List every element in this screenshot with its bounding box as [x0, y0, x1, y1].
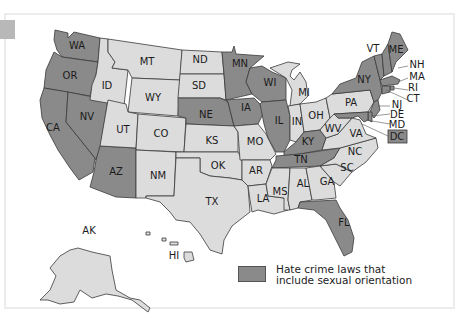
- label-wi: WI: [264, 77, 277, 88]
- state-hi-1[interactable]: [146, 232, 150, 235]
- label-sd: SD: [192, 80, 206, 91]
- label-ak: AK: [82, 225, 96, 236]
- label-la: LA: [257, 193, 270, 204]
- state-ri[interactable]: [390, 86, 394, 90]
- label-ok: OK: [211, 160, 226, 171]
- label-me: ME: [389, 44, 404, 55]
- state-fl[interactable]: [298, 200, 354, 256]
- label-hi: HI: [169, 250, 179, 261]
- label-vt: VT: [367, 43, 381, 54]
- label-nd: ND: [192, 54, 207, 65]
- label-ma: MA: [409, 71, 425, 82]
- label-ny: NY: [357, 74, 371, 85]
- label-nc: NC: [348, 146, 362, 157]
- label-mo: MO: [247, 136, 264, 147]
- label-ct: CT: [406, 93, 420, 104]
- label-in: IN: [292, 116, 302, 127]
- state-hi-4[interactable]: [184, 252, 194, 262]
- label-ia: IA: [241, 102, 251, 113]
- state-hi-2[interactable]: [162, 238, 166, 241]
- label-az: AZ: [109, 166, 123, 177]
- label-va: VA: [349, 128, 362, 139]
- label-ri: RI: [408, 82, 418, 93]
- label-pa: PA: [345, 97, 357, 108]
- legend-text: Hate crime laws that include sexual orie…: [276, 264, 412, 286]
- legend: Hate crime laws that include sexual orie…: [238, 264, 412, 286]
- label-il: IL: [275, 115, 284, 126]
- label-mt: MT: [140, 56, 156, 67]
- label-ky: KY: [302, 136, 315, 147]
- label-id: ID: [102, 80, 113, 91]
- label-co: CO: [154, 128, 169, 139]
- label-ne: NE: [199, 109, 213, 120]
- legend-swatch: [238, 266, 266, 282]
- label-tn: TN: [293, 154, 308, 165]
- label-sc: SC: [340, 162, 353, 173]
- label-md: MD: [389, 119, 406, 130]
- label-ca: CA: [46, 122, 60, 133]
- label-mi: MI: [298, 87, 310, 98]
- label-nm: NM: [150, 170, 166, 181]
- label-ks: KS: [206, 135, 219, 146]
- legend-line-2: include sexual orientation: [276, 275, 412, 286]
- label-al: AL: [297, 178, 310, 189]
- label-ga: GA: [320, 176, 335, 187]
- label-wa: WA: [69, 40, 85, 51]
- label-mn: MN: [232, 58, 248, 69]
- label-nh: NH: [410, 59, 425, 70]
- label-ms: MS: [273, 186, 288, 197]
- state-hi-3[interactable]: [170, 242, 178, 245]
- label-wy: WY: [145, 92, 162, 103]
- label-or: OR: [63, 70, 78, 81]
- label-nv: NV: [80, 111, 94, 122]
- label-ut: UT: [116, 124, 130, 135]
- label-wv: WV: [325, 123, 342, 134]
- label-dc: DC: [390, 131, 405, 142]
- state-ak[interactable]: [40, 248, 150, 312]
- label-ar: AR: [249, 165, 263, 176]
- label-fl: FL: [338, 217, 350, 228]
- label-tx: TX: [205, 196, 219, 207]
- label-oh: OH: [308, 110, 323, 121]
